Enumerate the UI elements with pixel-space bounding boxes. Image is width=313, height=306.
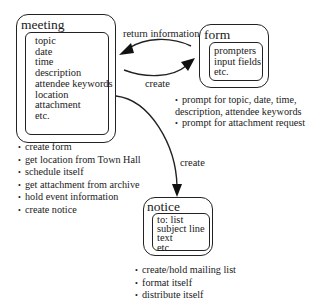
create-notice-label: create	[180, 157, 205, 168]
notice-attributes-box: to: list subject line text etc.	[152, 213, 210, 251]
notice-class-box: notice to: list subject line text etc.	[143, 197, 213, 256]
notice-attributes-list: to: list subject line text etc.	[157, 215, 205, 252]
meeting-attribute: etc.	[35, 111, 113, 122]
meeting-attribute: attendee keywords	[35, 79, 113, 90]
form-responsibility: prompt for attachment request	[175, 118, 305, 130]
form-class-box: form prompters input fields etc.	[199, 24, 269, 88]
form-responsibilities-list: prompt for topic, date, time, descriptio…	[175, 95, 305, 129]
notice-class-title: notice	[147, 200, 180, 214]
form-attribute: etc.	[214, 67, 261, 78]
arrowhead-left-icon	[119, 43, 134, 55]
meeting-responsibilities-list: create form get location from Town Hall …	[18, 141, 141, 217]
meeting-responsibility: create notice	[18, 204, 141, 217]
notice-responsibilities-list: create/hold mailing list format itself d…	[135, 264, 236, 302]
notice-responsibility: format itself	[135, 277, 236, 290]
meeting-class-box: meeting topic date time description atte…	[16, 14, 116, 143]
meeting-responsibility: create form	[18, 141, 141, 154]
return-information-label: return information	[123, 28, 199, 39]
form-responsibility-continuation: description, attendee keywords	[168, 107, 305, 118]
meeting-responsibility: get location from Town Hall	[18, 154, 141, 167]
arrow-return-information	[129, 39, 191, 48]
form-class-title: form	[204, 28, 230, 42]
notice-responsibility: distribute itself	[135, 289, 236, 302]
notice-attribute: etc.	[157, 243, 205, 252]
form-attributes-box: prompters input fields etc.	[209, 42, 263, 81]
meeting-responsibility: hold event information	[18, 191, 141, 204]
meeting-attributes-list: topic date time description attendee key…	[35, 36, 113, 122]
meeting-class-title: meeting	[21, 18, 65, 32]
create-form-label: create	[145, 78, 170, 89]
meeting-responsibility: schedule itself	[18, 166, 141, 179]
meeting-attributes-box: topic date time description attendee key…	[25, 32, 109, 135]
arrow-create-form	[124, 66, 186, 76]
notice-responsibility: create/hold mailing list	[135, 264, 236, 277]
arrowhead-down-icon	[172, 184, 182, 197]
meeting-responsibility: get attachment from archive	[18, 179, 141, 192]
form-attributes-list: prompters input fields etc.	[214, 46, 261, 78]
